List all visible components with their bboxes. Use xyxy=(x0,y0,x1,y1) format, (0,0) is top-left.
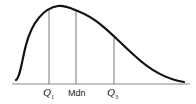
q1-label: Q1 xyxy=(43,87,54,100)
median-label: Mdn xyxy=(68,89,86,98)
distribution-diagram xyxy=(0,0,196,104)
q3-label: Q3 xyxy=(107,87,118,100)
skewed-curve xyxy=(16,6,184,82)
